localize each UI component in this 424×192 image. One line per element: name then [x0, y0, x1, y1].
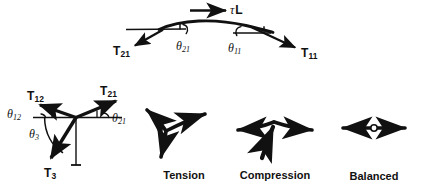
t3-arrow [51, 118, 76, 159]
theta3-arc [45, 118, 63, 153]
junction-theta12-label: θ12 [7, 108, 21, 120]
load-label: τL [230, 4, 243, 16]
junction-t3-label: T3 [44, 167, 56, 179]
tension-caption: Tension [144, 170, 224, 181]
junction-t21-sub: 21 [108, 89, 117, 99]
junction-t21-label: T21 [100, 85, 117, 97]
tension-diagram [147, 110, 205, 157]
right-tension-base: T [301, 46, 309, 60]
right-tension-sub: 11 [309, 51, 318, 61]
compression-caption: Compression [225, 170, 325, 181]
left-tangent-line [126, 29, 186, 30]
left-tension-base: T [113, 44, 121, 58]
right-angle-sub: 11 [234, 47, 241, 56]
load-unit: L [235, 3, 242, 17]
junction-theta3-sub: 3 [35, 133, 39, 142]
junction-theta21-label: θ21 [112, 112, 126, 124]
left-angle-label: θ21 [176, 40, 190, 52]
t21-arrow [76, 101, 116, 118]
load-symbol: τ [230, 3, 234, 17]
left-tension-sub: 21 [121, 49, 130, 59]
junction-t12-label: T12 [27, 90, 44, 102]
left-tension-label: T21 [113, 45, 130, 57]
junction-theta3-label: θ3 [29, 128, 39, 140]
junction-t12-base: T [27, 89, 35, 103]
right-angle-label: θ11 [228, 42, 241, 54]
mechanics-figure: τL T21 T11 θ21 θ11 T12 T21 T3 θ12 θ21 θ3… [0, 0, 424, 192]
junction-theta21-sub: 21 [118, 117, 126, 126]
right-angle-arc [236, 27, 241, 36]
right-tension-label: T11 [301, 47, 318, 59]
compression-diagram [238, 122, 312, 158]
figure-vector-layer [0, 0, 424, 192]
balanced-caption: Balanced [334, 171, 414, 182]
right-tension-arrow [252, 28, 295, 48]
junction-t3-base: T [44, 166, 52, 180]
left-tension-arrow [135, 30, 163, 46]
junction-theta12-sub: 12 [13, 113, 21, 122]
balanced-diagram [343, 125, 405, 131]
junction-t3-sub: 3 [52, 171, 57, 181]
junction-t12-sub: 12 [35, 94, 44, 104]
junction-t21-base: T [100, 84, 108, 98]
filament-arc [159, 21, 273, 33]
left-angle-sub: 21 [182, 45, 190, 54]
